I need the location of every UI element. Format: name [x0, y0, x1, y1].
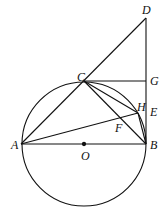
geometry-diagram: DCGHEFAOB — [0, 0, 162, 219]
point-label-O: O — [81, 150, 90, 162]
point-label-B: B — [150, 139, 157, 151]
point-label-D: D — [142, 4, 151, 16]
point-label-E: E — [150, 106, 157, 118]
point-label-H: H — [137, 101, 146, 113]
point-label-G: G — [150, 75, 159, 87]
center-dot — [82, 142, 85, 145]
point-label-A: A — [11, 139, 18, 151]
point-label-F: F — [115, 122, 122, 134]
point-label-C: C — [77, 71, 85, 83]
